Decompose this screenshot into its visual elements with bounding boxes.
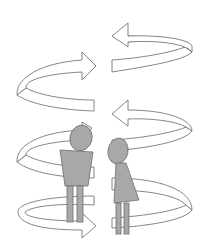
female-right-leg: [124, 203, 129, 234]
illustration: [0, 0, 212, 247]
male-left-leg: [67, 186, 73, 222]
female-left-leg: [116, 203, 121, 234]
arrow-right-icon: [18, 196, 96, 238]
male-body: [60, 150, 93, 186]
male-right-leg: [77, 186, 83, 222]
arrow-right-icon: [17, 52, 96, 111]
arrow-left-icon: [112, 23, 192, 72]
